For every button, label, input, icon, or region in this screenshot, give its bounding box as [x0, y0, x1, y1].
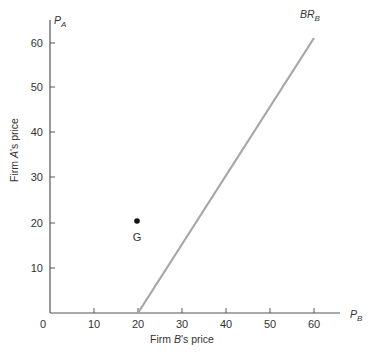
point-g-marker	[134, 218, 140, 224]
x-ticks	[94, 308, 314, 313]
x-tick-60: 60	[308, 318, 320, 330]
y-tick-10: 10	[31, 262, 43, 274]
y-tick-50: 50	[31, 81, 43, 93]
br-b-line	[138, 38, 314, 313]
y-tick-60: 60	[31, 37, 43, 49]
origin-label: 0	[40, 318, 46, 330]
x-tick-30: 30	[176, 318, 188, 330]
point-g-label: G	[133, 231, 142, 243]
y-tick-20: 20	[31, 217, 43, 229]
chart-canvas: 10 20 30 40 50 60 0 10 20 30 40 50 60 PA…	[0, 0, 380, 357]
y-tick-30: 30	[31, 171, 43, 183]
br-b-label: BRB	[300, 8, 321, 23]
x-axis-symbol: PB	[350, 308, 363, 323]
y-ticks	[50, 43, 55, 268]
y-axis-symbol: PA	[54, 14, 66, 29]
x-tick-40: 40	[220, 318, 232, 330]
y-tick-40: 40	[31, 126, 43, 138]
x-tick-10: 10	[88, 318, 100, 330]
x-tick-50: 50	[264, 318, 276, 330]
y-axis-title: Firm A's price	[8, 118, 20, 182]
x-axis-title: Firm B's price	[150, 333, 214, 345]
x-tick-20: 20	[132, 318, 144, 330]
